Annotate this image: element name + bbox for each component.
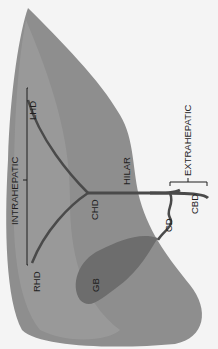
- label-cbd: CBD: [189, 194, 200, 214]
- faint-caption: [206, 10, 216, 340]
- label-intrahepatic: INTRAHEPATIC: [9, 157, 20, 225]
- label-hilar: HILAR: [121, 157, 132, 185]
- label-cd: CD: [163, 218, 174, 232]
- label-lhd: LHD: [27, 101, 38, 120]
- label-rhd: RHD: [31, 271, 42, 292]
- biliary-diagram: INTRAHEPATIC LHD RHD CHD HILAR GB CD CBD…: [0, 0, 218, 349]
- label-extrahepatic: EXTRAHEPATIC: [182, 104, 193, 176]
- label-gb: GB: [90, 278, 101, 292]
- extrahepatic-bracket: [170, 178, 207, 186]
- label-chd: CHD: [89, 199, 100, 220]
